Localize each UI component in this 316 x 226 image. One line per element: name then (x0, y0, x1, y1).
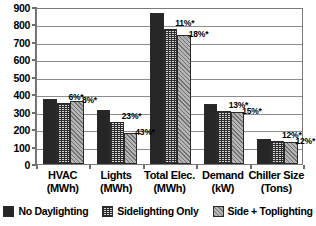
data-label: 43%* (135, 128, 155, 137)
x-axis-category-demand: Demand(kW) (192, 169, 253, 195)
bar-chiller-size-series-1 (271, 141, 285, 164)
data-label: 8%* (82, 96, 97, 105)
legend-swatch-no-daylighting (3, 206, 14, 217)
legend-item-no-daylighting: No Daylighting (3, 205, 88, 217)
data-label: 18%* (189, 30, 209, 39)
bar-total-elec--series-2 (177, 35, 191, 164)
legend-swatch-side-toplighting (213, 206, 224, 217)
y-axis-tick-label: 500 (2, 73, 30, 83)
x-axis-category-name: HVAC (32, 169, 93, 182)
gridline (37, 26, 302, 27)
x-axis-category-unit: (MWh) (85, 182, 146, 195)
bar-chart: 9008007006005004003002001000 6%*8%*23%*4… (0, 0, 316, 226)
y-axis-tick-label: 800 (2, 20, 30, 30)
bar-demand-series-0 (204, 104, 218, 164)
legend-swatch-sidelighting-only (102, 206, 113, 217)
bar-chiller-size-series-0 (257, 139, 271, 164)
y-axis-tick-label: 100 (2, 143, 30, 153)
x-axis-category-total-elec-: Total Elec.(MWh) (139, 169, 200, 195)
y-axis-tick-label: 400 (2, 90, 30, 100)
x-axis-category-lights: Lights(MWh) (85, 169, 146, 195)
bar-lights-series-2 (124, 133, 138, 164)
bar-hvac-series-2 (70, 101, 84, 164)
x-axis-category-unit: (MWh) (32, 182, 93, 195)
plot-area (36, 8, 303, 165)
legend-item-sidelighting-only: Sidelighting Only (102, 205, 198, 217)
bar-hvac-series-1 (57, 103, 71, 164)
legend-label-sidelighting-only: Sidelighting Only (117, 205, 198, 217)
y-axis-tick-label: 300 (2, 108, 30, 118)
bar-total-elec--series-0 (150, 13, 164, 164)
chart-legend: No Daylighting Sidelighting Only Side + … (0, 203, 316, 219)
data-label: 11%* (175, 19, 194, 28)
y-axis-tick-label: 0 (2, 160, 30, 170)
legend-item-side-toplighting: Side + Toplighting (213, 205, 313, 217)
data-label: 23%* (122, 112, 142, 121)
bar-lights-series-0 (97, 110, 111, 164)
data-label: 15%* (242, 107, 262, 116)
bar-total-elec--series-1 (164, 29, 178, 164)
legend-label-no-daylighting: No Daylighting (18, 205, 88, 217)
y-axis-tick-label: 600 (2, 55, 30, 65)
legend-label-side-toplighting: Side + Toplighting (228, 205, 313, 217)
bar-demand-series-2 (231, 112, 245, 164)
x-axis-category-unit: (kW) (192, 182, 253, 195)
x-axis-tick-mark (303, 165, 305, 169)
data-label: 12%* (296, 137, 316, 146)
x-axis-category-chiller-size: Chiller Size(Tons) (246, 169, 307, 195)
x-axis-category-name: Total Elec. (139, 169, 200, 182)
y-axis-tick-label: 900 (2, 3, 30, 13)
bar-demand-series-1 (217, 111, 231, 164)
x-axis-category-unit: (MWh) (139, 182, 200, 195)
bar-lights-series-1 (110, 122, 124, 164)
bar-hvac-series-0 (43, 99, 57, 164)
x-axis-category-name: Chiller Size (246, 169, 307, 182)
x-axis-category-name: Lights (85, 169, 146, 182)
x-axis-category-name: Demand (192, 169, 253, 182)
y-axis-tick-label: 200 (2, 125, 30, 135)
x-axis-category-hvac: HVAC(MWh) (32, 169, 93, 195)
x-axis-category-unit: (Tons) (246, 182, 307, 195)
y-axis-tick-label: 700 (2, 38, 30, 48)
